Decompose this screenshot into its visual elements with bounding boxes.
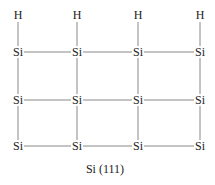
atom-h: H [133,9,144,21]
atom-h: H [195,9,206,21]
si-111-surface-diagram: H H H H Si Si Si Si Si Si Si Si Si Si Si… [0,0,215,185]
atom-h: H [72,9,83,21]
atom-si: Si [12,140,24,152]
atom-h: H [13,9,24,21]
bond-lines [0,0,215,185]
diagram-caption: Si (111) [86,162,124,177]
atom-si: Si [194,140,206,152]
atom-si: Si [132,94,144,106]
atom-si: Si [132,46,144,58]
atom-si: Si [71,140,83,152]
atom-si: Si [132,140,144,152]
atom-si: Si [12,46,24,58]
atom-si: Si [71,46,83,58]
atom-si: Si [12,94,24,106]
atom-si: Si [194,46,206,58]
atom-si: Si [71,94,83,106]
atom-si: Si [194,94,206,106]
